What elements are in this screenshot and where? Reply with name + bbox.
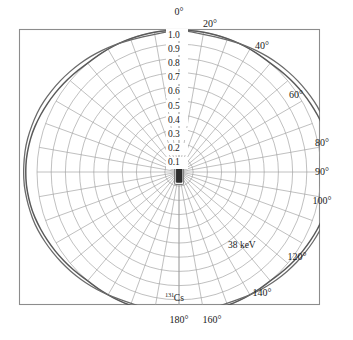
angle-tick-label: 20° [203,19,217,29]
angle-tick-label: 160° [203,315,222,325]
radial-tick-label: 1.0 [168,31,180,41]
angle-tick-label: 0° [175,7,184,17]
radial-tick-label: 0.7 [168,73,180,83]
isotope-mass-number: 131 [165,291,174,298]
angle-tick-label: 60° [289,90,303,100]
angle-tick-label: 40° [255,41,269,51]
angle-tick-label: 80° [315,138,329,148]
angle-tick-label: 100° [313,196,332,206]
angle-tick-label: 180° [170,315,189,325]
angle-tick-label: 140° [253,288,272,298]
polar-anisotropy-figure: 1.00.90.80.70.60.50.40.30.20.1 0°20°40°6… [0,0,353,340]
radial-tick-label: 0.5 [168,102,180,112]
radial-tick-label: 0.4 [168,116,180,126]
radial-tick-label: 0.2 [168,144,180,154]
angle-tick-label: 90° [315,167,329,177]
angle-tick-label: 120° [288,252,307,262]
radial-tick-label: 0.9 [168,45,180,55]
radial-tick-label: 0.3 [168,130,180,140]
curve-label-isotope: 131Cs [165,292,184,304]
radial-tick-label: 0.6 [168,87,180,97]
isotope-element-symbol: Cs [174,293,184,303]
radial-tick-label: 0.8 [168,59,180,69]
curve-label-38kev: 38 keV [228,241,256,251]
radial-tick-label: 0.1 [168,158,180,168]
